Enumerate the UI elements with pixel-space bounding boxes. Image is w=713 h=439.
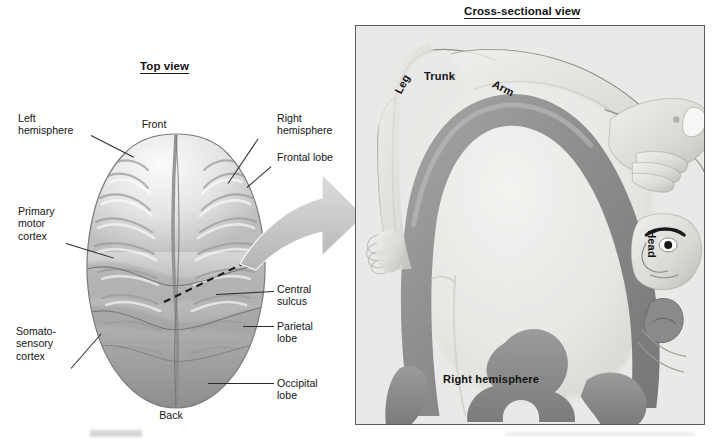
- top-view-title: Top view: [140, 60, 189, 72]
- label-somatosensory-cortex: Somato- sensory cortex: [16, 325, 56, 362]
- magnify-arrow-icon: [238, 168, 366, 276]
- top-view-title-text: Top view: [140, 60, 189, 74]
- leader-occipital-lobe: [208, 383, 274, 384]
- cross-section-title-text: Cross-sectional view: [464, 5, 580, 19]
- label-primary-motor-cortex: Primary motor cortex: [18, 205, 55, 242]
- label-frontal-lobe: Frontal lobe: [277, 151, 333, 163]
- leader-parietal-lobe: [243, 326, 274, 327]
- homunculus-label-head: Head: [646, 230, 658, 258]
- label-occipital-lobe: Occipital lobe: [277, 377, 318, 402]
- label-right-hemisphere: Right hemisphere: [277, 112, 332, 137]
- label-left-hemisphere: Left hemisphere: [18, 112, 73, 137]
- figure-canvas: Top view Cross-sectional view: [0, 0, 713, 439]
- cross-section-right-hemisphere-label: Right hemisphere: [443, 373, 539, 386]
- label-front: Front: [131, 118, 177, 130]
- label-back: Back: [148, 409, 194, 421]
- homunculus-label-trunk: Trunk: [424, 70, 455, 82]
- page-scan-artifact-right: [505, 432, 695, 436]
- label-parietal-lobe: Parietal lobe: [277, 320, 313, 345]
- page-scan-artifact-left: [90, 430, 142, 437]
- cross-section-title: Cross-sectional view: [464, 5, 580, 17]
- label-central-sulcus: Central sulcus: [277, 283, 311, 308]
